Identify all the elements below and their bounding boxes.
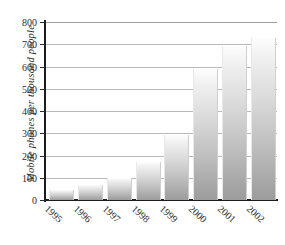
x-axis-tick-label: 1996 <box>71 203 93 225</box>
x-axis-tick-label: 1999 <box>158 203 180 225</box>
bar <box>78 185 103 200</box>
bar <box>49 190 74 200</box>
x-axis-tick-labels: 19951996199719981999200020012002 <box>46 203 277 245</box>
x-axis-tick-label: 2001 <box>216 203 238 225</box>
y-axis-tick-label: 300 <box>22 128 37 139</box>
y-axis-tick-label: 700 <box>22 39 37 50</box>
bar-series <box>46 22 277 200</box>
y-axis-tick-label: 800 <box>22 17 37 28</box>
x-axis-tick-label: 1997 <box>100 203 122 225</box>
x-axis-tick-label: 2002 <box>245 203 267 225</box>
bar <box>193 69 218 200</box>
bar <box>107 178 132 200</box>
y-axis-tick-label: 200 <box>22 150 37 161</box>
y-axis-tick-label: 400 <box>22 106 37 117</box>
bar <box>222 46 247 200</box>
y-axis-tick-label: 600 <box>22 61 37 72</box>
bar <box>136 162 161 200</box>
x-axis-tick-label: 1998 <box>129 203 151 225</box>
bar <box>164 135 189 200</box>
y-axis-tick-label: 100 <box>22 172 37 183</box>
y-axis-tick-label: 0 <box>32 195 37 206</box>
y-axis-tick-label: 500 <box>22 83 37 94</box>
x-axis-tick-label: 1995 <box>43 203 65 225</box>
plot-area: 0100200300400500600700800 <box>46 22 277 200</box>
chart-screenshot: Mobile phones per thousand people 010020… <box>0 0 285 245</box>
bar <box>251 38 276 200</box>
x-axis-tick-label: 2000 <box>187 203 209 225</box>
y-axis-tick <box>40 200 46 201</box>
